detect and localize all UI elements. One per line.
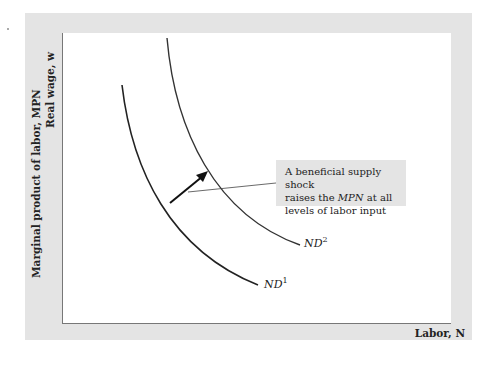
nd2-sup: 2 bbox=[322, 235, 327, 244]
callout-line2: raises the MPN at all bbox=[285, 191, 406, 204]
callout-line1: A beneficial supply shock bbox=[285, 165, 406, 191]
nd1-main: ND bbox=[264, 278, 282, 291]
callout-text: raises the bbox=[285, 192, 338, 203]
callout-mpn: MPN bbox=[338, 192, 364, 203]
shift-arrow bbox=[170, 176, 203, 203]
nd1-curve bbox=[122, 85, 258, 285]
callout-line3: levels of labor input bbox=[285, 204, 406, 217]
nd1-sup: 1 bbox=[282, 276, 287, 285]
curves-layer bbox=[0, 0, 493, 365]
leader-line bbox=[188, 183, 276, 192]
nd1-label: ND1 bbox=[264, 276, 288, 291]
callout-text: at all bbox=[364, 192, 393, 203]
callout-box: A beneficial supply shock raises the MPN… bbox=[276, 160, 406, 206]
nd2-curve bbox=[167, 38, 300, 245]
nd2-main: ND bbox=[304, 237, 322, 250]
nd2-label: ND2 bbox=[304, 235, 328, 250]
x-axis-label: Labor, N bbox=[415, 327, 465, 339]
